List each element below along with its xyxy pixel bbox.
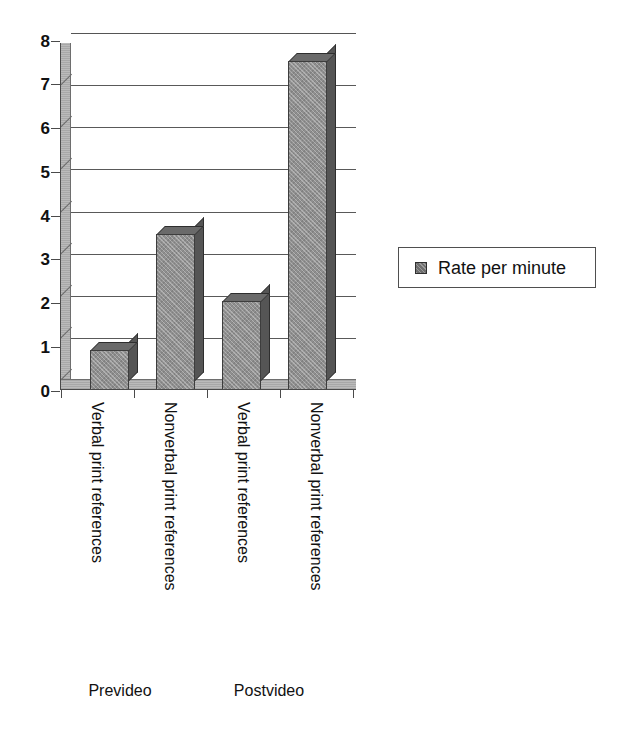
bar-front-face (288, 61, 327, 390)
grid-riser-2 (60, 296, 71, 307)
y-axis-tick-label-8: 8 (24, 33, 50, 50)
bar-postvideo-verbal[interactable] (222, 293, 261, 390)
legend-entry-label: Rate per minute (438, 259, 566, 277)
x-axis-group-label-prevideo: Prevideo (68, 683, 172, 699)
x-axis-group-label-postvideo: Postvideo (214, 683, 324, 699)
x-axis-tick-mark-0 (61, 390, 62, 398)
y-axis-tick-label-2: 2 (24, 295, 50, 312)
y-axis-tick-mark-1 (51, 347, 60, 348)
grid-riser-4 (60, 212, 71, 223)
bar-front-face (156, 234, 195, 390)
y-axis-line (60, 43, 61, 390)
plot-area (60, 33, 356, 390)
x-axis-category-labels: Verbal print references Nonverbal print … (0, 398, 629, 658)
grid-riser-5 (60, 169, 71, 180)
bar-postvideo-nonverbal[interactable] (288, 53, 327, 390)
grid-riser-7 (60, 85, 71, 96)
y-axis-tick-label-5: 5 (24, 164, 50, 181)
x-axis-tick-mark-4 (353, 390, 354, 398)
x-axis-tick-mark-3 (280, 390, 281, 398)
legend: Rate per minute (398, 247, 596, 288)
bar-prevideo-verbal[interactable] (90, 342, 129, 390)
bar-front-face (90, 350, 129, 390)
x-axis-tick-mark-2 (207, 390, 208, 398)
bar-chart: 8 7 6 5 4 3 2 1 0 (0, 0, 629, 753)
legend-swatch-icon (415, 262, 427, 274)
x-axis-group-labels: Prevideo Postvideo (0, 683, 629, 713)
bar-side-face (327, 44, 336, 381)
grid-riser-3 (60, 254, 71, 265)
grid-riser-1 (60, 338, 71, 349)
y-axis-tick-mark-8 (51, 41, 60, 42)
y-axis-tick-label-1: 1 (24, 339, 50, 356)
y-axis-tick-mark-5 (51, 172, 60, 173)
bar-prevideo-nonverbal[interactable] (156, 226, 195, 390)
y-axis-tick-mark-2 (51, 303, 60, 304)
x-axis-tick-mark-1 (134, 390, 135, 398)
y-axis-tick-mark-3 (51, 259, 60, 260)
y-axis-tick-label-7: 7 (24, 76, 50, 93)
y-axis-tick-label-6: 6 (24, 120, 50, 137)
y-axis-tick-mark-4 (51, 216, 60, 217)
bar-front-face (222, 301, 261, 390)
x-axis-category-label-2: Verbal print references (235, 402, 251, 563)
x-axis-category-label-0: Verbal print references (89, 402, 105, 563)
bar-side-face (195, 217, 204, 381)
y-axis-tick-label-4: 4 (24, 208, 50, 225)
grid-riser-6 (60, 127, 71, 138)
y-axis-tick-label-3: 3 (24, 251, 50, 268)
x-axis-category-label-1: Nonverbal print references (162, 402, 178, 591)
x-axis-category-label-3: Nonverbal print references (308, 402, 324, 591)
y-axis-tick-mark-6 (51, 128, 60, 129)
